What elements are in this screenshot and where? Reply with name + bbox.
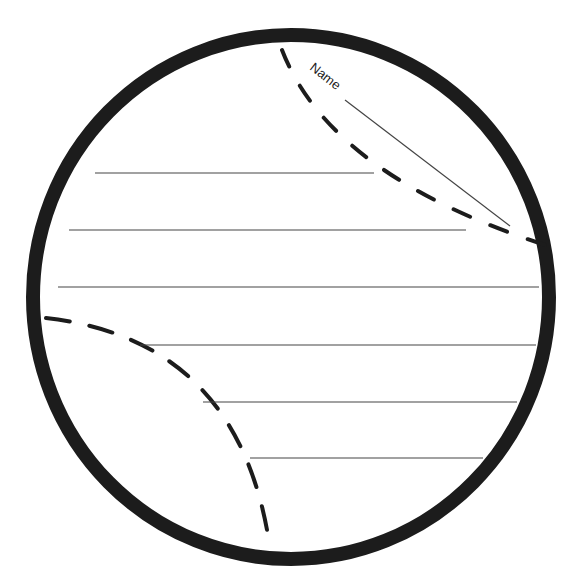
name-label: Name	[307, 60, 344, 93]
circle-outline	[33, 35, 549, 559]
circle-worksheet: Name	[0, 0, 588, 582]
